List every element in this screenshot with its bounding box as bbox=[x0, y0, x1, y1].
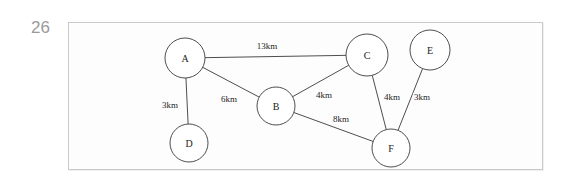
figure-frame bbox=[68, 22, 543, 170]
question-number: 26 bbox=[31, 18, 50, 38]
figure-canvas: 26 ABCDEF 13km13km3km3km6km6km4km4km8km8… bbox=[0, 0, 568, 183]
